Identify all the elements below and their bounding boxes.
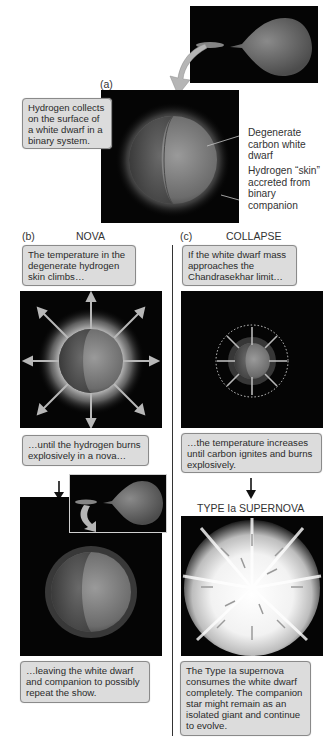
callout-b-2: …until the hydrogen burns explosively in… [22, 435, 149, 466]
callout-c-1: If the white dwarf mass approaches the C… [182, 245, 297, 286]
callout-c-3: The Type Ia supernova consumes the white… [180, 661, 311, 736]
white-dwarf-image-a [101, 90, 239, 223]
callout-a: Hydrogen collects on the surface of a wh… [22, 98, 112, 149]
annotation-degenerate-carbon: Degenerate carbon white dwarf [248, 127, 324, 162]
nova-image [20, 291, 162, 428]
callout-b-3: …leaving the white dwarf and companion t… [20, 661, 150, 703]
down-arrow-icon-c [246, 478, 256, 500]
panel-b-label: (b) [22, 230, 35, 242]
column-divider [172, 245, 173, 736]
supernova-image [181, 516, 323, 656]
panel-c-title: COLLAPSE [226, 230, 281, 242]
panel-b-title: NOVA [76, 230, 105, 242]
collapse-image [181, 291, 323, 428]
callout-c-2: …the temperature increases until carbon … [181, 433, 322, 473]
panel-c-label: (c) [180, 230, 192, 242]
annotation-hydrogen-skin: Hydrogen “skin” accreted from binary com… [248, 165, 328, 211]
panel-a-label: (a) [100, 78, 113, 90]
binary-inset-image-b [69, 474, 167, 533]
supernova-title: TYPE Ia SUPERNOVA [197, 502, 304, 514]
callout-b-1: The temperature in the degenerate hydrog… [22, 245, 136, 286]
